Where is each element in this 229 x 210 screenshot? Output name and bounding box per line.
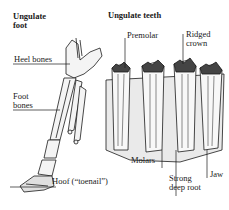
foot-title: Ungulate foot <box>13 12 46 30</box>
label-jaw: Jaw <box>210 170 223 179</box>
foot-bones-line2: bones <box>13 101 33 110</box>
label-heel-bones: Heel bones <box>14 55 52 64</box>
label-ridged-crown: Ridged crown <box>186 30 211 48</box>
label-hoof: Hoof (“toenail”) <box>52 177 108 186</box>
root-line2: deep root <box>169 183 201 192</box>
ridged-line2: crown <box>186 39 211 48</box>
teeth-title: Ungulate teeth <box>108 11 161 20</box>
foot-title-line2: foot <box>13 21 46 30</box>
label-strong-deep-root: Strong deep root <box>169 174 201 192</box>
label-molars: Molars <box>131 156 155 165</box>
label-foot-bones: Foot bones <box>13 92 33 110</box>
ungulate-teeth-illustration <box>106 58 224 162</box>
label-premolar: Premolar <box>127 31 158 40</box>
